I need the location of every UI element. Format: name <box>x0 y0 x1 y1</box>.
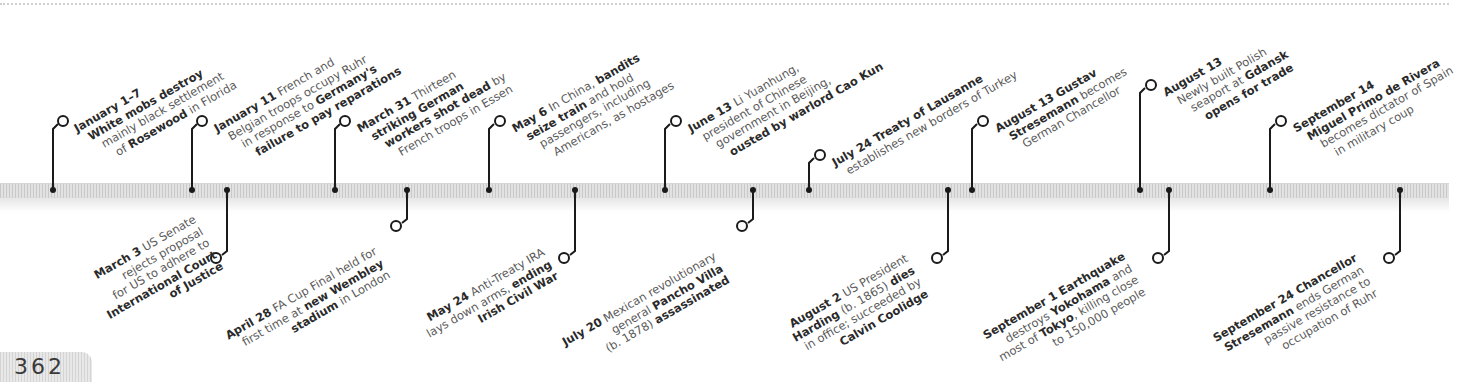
connector-aug-13-gdansk <box>1140 80 1156 190</box>
event-apr-28: April 28 FA Cup Final held for first tim… <box>208 245 393 375</box>
event-jan-1-7: January 1–7 White mobs destroy mainly bl… <box>72 43 239 171</box>
event-jul-20: July 20 Mexican revolutionary general Pa… <box>556 250 732 375</box>
event-aug-13-gdansk: August 13 Newly built Polish seaport at … <box>1161 25 1298 135</box>
event-mar-3: March 3 US Senate rejects proposal for U… <box>62 213 226 346</box>
event-sep-24: September 24 Chancellor Stresemann ends … <box>1210 252 1380 381</box>
connector-mar-31 <box>335 116 350 190</box>
connector-jan-1-7 <box>53 116 68 190</box>
page-number-badge: 362 <box>0 352 92 382</box>
event-aug-2: August 2 US President Harding (b. 1865) … <box>772 252 931 375</box>
event-may-24: May 24 Anti-Treaty IRA lays down arms, e… <box>402 246 561 361</box>
event-sep-14: September 14 Miguel Primo de Rivera beco… <box>1291 41 1458 171</box>
timeline-bar <box>0 183 1449 199</box>
event-sep-1: September 1 Earthquake destroys Yokohama… <box>972 250 1148 383</box>
connector-jun-13 <box>665 116 681 190</box>
timeline-bar-shadow <box>0 198 1449 212</box>
top-dotted-rule <box>0 3 1449 5</box>
connector-aug-13-gustav <box>972 116 988 190</box>
connector-may-6 <box>489 116 505 190</box>
event-may-6: May 6 In China, bandits seize train and … <box>510 44 676 171</box>
connector-sep-14 <box>1270 116 1286 190</box>
connector-jan-11 <box>192 116 207 190</box>
page-number: 362 <box>14 354 65 379</box>
